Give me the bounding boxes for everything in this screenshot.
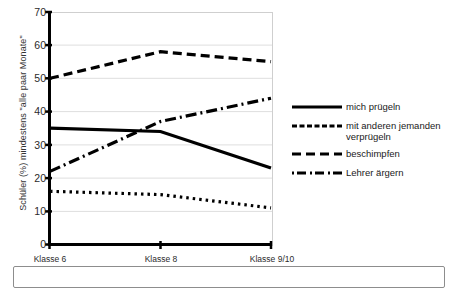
legend-item-lehrer-aergern: Lehrer ärgern (292, 166, 454, 180)
chart-legend: mich prügeln mit anderen jemanden verprü… (292, 100, 454, 185)
legend-item-mit-anderen-verpruegeln: mit anderen jemanden verprügeln (292, 119, 454, 142)
legend-swatch-dotted-icon (292, 119, 342, 133)
legend-swatch-dash-dot-icon (292, 166, 342, 180)
legend-item-mich-pruegeln: mich prügeln (292, 100, 454, 114)
legend-label-mit-anderen-verpruegeln: mit anderen jemanden verprügeln (346, 119, 454, 142)
legend-label-lehrer-aergern: Lehrer ärgern (346, 166, 404, 178)
legend-swatch-dashed-icon (292, 147, 342, 161)
x-tick-label-klasse-8: Klasse 8 (130, 254, 192, 264)
legend-label-beschimpfen: beschimpfen (346, 147, 400, 159)
legend-item-beschimpfen: beschimpfen (292, 147, 454, 161)
legend-swatch-solid-icon (292, 100, 342, 114)
caption-box (13, 266, 445, 288)
x-tick-label-klasse-6: Klasse 6 (19, 254, 81, 264)
x-tick-label-klasse-9-10: Klasse 9/10 (238, 254, 306, 264)
legend-label-mich-pruegeln: mich prügeln (346, 100, 400, 112)
